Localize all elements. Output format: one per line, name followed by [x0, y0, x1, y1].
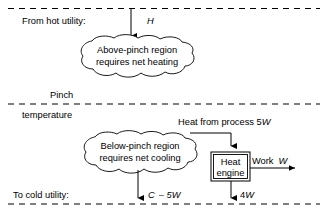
diagram-canvas: From hot utility: Pinch temperature To c… [0, 0, 327, 213]
pinch-analysis-diagram: From hot utility: Pinch temperature To c… [0, 0, 327, 213]
above-pinch-region-shape [81, 35, 194, 78]
cold-utility-value-label: C– 5W [148, 190, 182, 200]
cold-utility-label: To cold utility: [13, 190, 69, 200]
work-output-label: WorkW [252, 156, 289, 166]
below-pinch-region-line1: Below-pinch region [100, 141, 179, 151]
heat-from-process-label: Heat from process 5W [178, 117, 272, 127]
above-pinch-region-line2: requires net heating [96, 57, 178, 67]
heat-engine-label-line2: engine [217, 168, 245, 178]
above-pinch-region-line1: Above-pinch region [97, 45, 177, 55]
hot-utility-label: From hot utility: [22, 16, 86, 26]
engine-reject-value-label: 4W [240, 190, 255, 200]
heat-engine-label-line1: Heat [221, 157, 241, 167]
temperature-label: temperature [22, 110, 72, 120]
below-pinch-region-shape [84, 131, 197, 174]
below-pinch-region-line2: requires net cooling [99, 153, 180, 163]
pinch-label: Pinch [50, 90, 73, 100]
hot-utility-duty-label: H [147, 16, 154, 26]
